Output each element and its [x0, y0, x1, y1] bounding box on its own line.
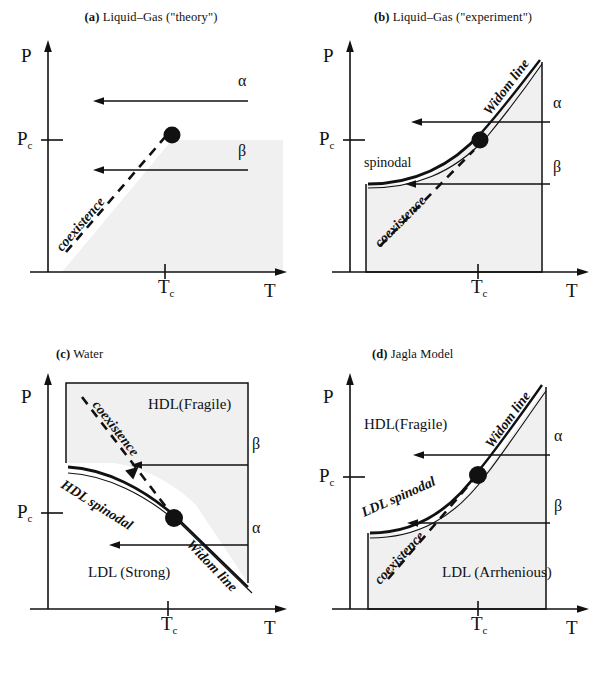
ldl-region-label-c: LDL (Strong)	[88, 564, 170, 581]
ldl-spinodal-label-d: LDL spinodal	[358, 474, 437, 520]
beta-label-b: β	[553, 158, 561, 176]
t-axis-arrow-d	[577, 605, 589, 613]
hdl-region-label-c: HDL(Fragile)	[148, 396, 231, 413]
panel-d-plot: P T Pc Tc HDL(Fragile) LDL (Arrhenious) …	[302, 337, 604, 673]
hdl-spinodal-label-c: HDL spinodal	[58, 476, 136, 533]
alpha-arrowhead-a	[93, 97, 104, 104]
hdl-region-label-d: HDL(Fragile)	[364, 416, 447, 433]
critical-point-b	[472, 132, 489, 149]
tc-axis-label-b: Tc	[471, 276, 488, 299]
t-axis-arrow-c	[275, 605, 287, 613]
t-axis-arrow-b	[577, 268, 589, 276]
p-axis-arrow-d	[346, 373, 354, 385]
t-axis-label-d: T	[566, 617, 578, 638]
panel-c-plot: P T Pc Tc HDL(Fragile) LDL (Strong) β α …	[0, 337, 302, 673]
alpha-label-b: α	[553, 94, 562, 111]
critical-point-d	[469, 466, 487, 484]
p-axis-label-d: P	[323, 386, 334, 407]
p-axis-arrow-b	[346, 40, 354, 52]
panel-a-plot: P T Pc Tc α β coexistence	[0, 0, 302, 336]
figure-root: (a) Liquid–Gas ("theory")	[0, 0, 604, 673]
beta-label-d: β	[554, 497, 562, 515]
alpha-label-d: α	[554, 427, 563, 444]
pc-axis-label-b: Pc	[319, 128, 335, 151]
spinodal-label-b: spinodal	[364, 155, 412, 170]
pc-axis-label-c: Pc	[17, 501, 33, 524]
pc-axis-label-a: Pc	[17, 128, 33, 151]
panel-d: (d) Jagla Model	[302, 337, 604, 673]
p-axis-arrow-c	[44, 373, 52, 385]
critical-point-c	[165, 509, 183, 527]
tc-axis-label-a: Tc	[158, 276, 175, 299]
p-axis-arrow-a	[44, 40, 52, 52]
ldl-region-label-d: LDL (Arrhenious)	[442, 564, 552, 581]
t-axis-label-a: T	[264, 280, 276, 301]
p-axis-label-b: P	[323, 45, 334, 66]
panel-c: (c) Water	[0, 337, 302, 673]
pc-axis-label-d: Pc	[319, 465, 335, 488]
t-axis-label-c: T	[264, 617, 276, 638]
p-axis-label-a: P	[21, 45, 32, 66]
beta-label-c: β	[252, 435, 260, 453]
beta-label-a: β	[238, 142, 246, 160]
critical-point-a	[164, 127, 181, 144]
alpha-label-a: α	[238, 72, 247, 89]
alpha-arrowhead-d	[413, 451, 424, 458]
tc-axis-label-c: Tc	[161, 613, 178, 636]
t-axis-label-b: T	[566, 280, 578, 301]
alpha-arrowhead-b	[411, 118, 422, 125]
panel-b-plot: P T Pc Tc α β spinodal coexistence Widom…	[302, 0, 604, 336]
tc-axis-label-d: Tc	[471, 613, 488, 636]
alpha-label-c: α	[252, 519, 261, 536]
beta-arrowhead-a	[93, 166, 104, 173]
p-axis-label-c: P	[21, 386, 32, 407]
coexistence-arrowhead-c	[124, 466, 138, 480]
panel-a: (a) Liquid–Gas ("theory")	[0, 0, 302, 336]
panel-b: (b) Liquid–Gas ("experiment")	[302, 0, 604, 336]
alpha-arrowhead-c	[109, 541, 120, 548]
